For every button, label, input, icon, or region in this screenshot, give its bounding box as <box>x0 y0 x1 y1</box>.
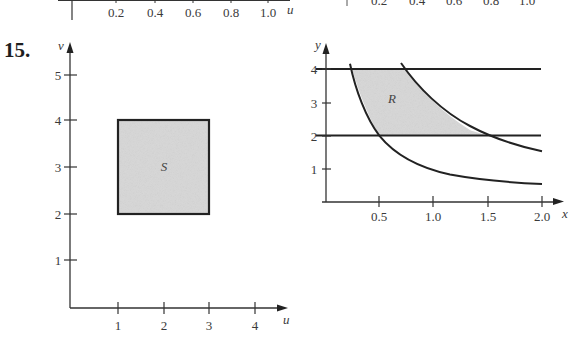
y-tick-2: 2 <box>311 129 318 144</box>
top-left-axis-label-u: u <box>287 2 294 17</box>
y-tick-1: 1 <box>311 162 318 177</box>
v-axis-arrow-icon <box>67 42 74 53</box>
u-axis-label: u <box>283 312 290 327</box>
u-tick-2: 2 <box>161 318 168 333</box>
region-r-label: R <box>387 91 396 106</box>
y-axis-arrow-icon <box>323 43 330 54</box>
y-axis-label: y <box>313 37 321 52</box>
top-left-tick-0.6: 0.6 <box>185 5 202 20</box>
x-tick-1.0: 1.0 <box>425 209 441 224</box>
x-axis-label: x <box>561 206 568 221</box>
x-axis-arrow-icon <box>553 198 564 205</box>
x-ticks: 0.5 1.0 1.5 2.0 <box>371 196 550 224</box>
v-tick-2: 2 <box>55 207 62 222</box>
region-s-label: S <box>161 159 168 174</box>
figure-canvas: 0.2 0.4 0.6 0.8 1.0 u 0.2 0.4 0.6 0.8 1.… <box>0 0 572 337</box>
x-tick-0.5: 0.5 <box>371 209 387 224</box>
u-tick-3: 3 <box>206 318 213 333</box>
u-axis-arrow-icon <box>277 305 288 312</box>
top-right-tick-0.6: 0.6 <box>446 0 463 8</box>
v-ticks: 5 4 3 2 1 <box>55 68 77 268</box>
top-right-tick-0.4: 0.4 <box>409 0 426 8</box>
top-left-tick-0.8: 0.8 <box>223 5 239 20</box>
xy-plot: R y 4 3 2 1 x 0.5 1.0 1.5 2.0 <box>311 37 568 224</box>
v-axis-label: v <box>58 38 64 53</box>
uv-plot: S v 5 4 3 2 1 u 1 2 3 <box>55 38 290 333</box>
y-tick-3: 3 <box>311 96 318 111</box>
v-tick-1: 1 <box>55 253 62 268</box>
top-left-tick-0.4: 0.4 <box>147 5 164 20</box>
top-left-tick-0.2: 0.2 <box>108 5 124 20</box>
x-tick-2.0: 2.0 <box>534 209 550 224</box>
u-ticks: 1 2 3 4 <box>115 302 259 333</box>
u-tick-4: 4 <box>252 318 259 333</box>
y-tick-4: 4 <box>311 62 318 77</box>
v-tick-3: 3 <box>55 160 62 175</box>
top-left-tick-1.0: 1.0 <box>260 5 276 20</box>
u-tick-1: 1 <box>115 318 122 333</box>
x-tick-1.5: 1.5 <box>480 209 496 224</box>
top-cropped-axes: 0.2 0.4 0.6 0.8 1.0 u 0.2 0.4 0.6 0.8 1.… <box>58 0 535 20</box>
top-right-tick-0.2: 0.2 <box>371 0 387 8</box>
top-right-tick-0.8: 0.8 <box>483 0 499 8</box>
v-tick-4: 4 <box>55 113 62 128</box>
y-ticks: 4 3 2 1 <box>311 62 331 177</box>
top-right-tick-1.0: 1.0 <box>519 0 535 8</box>
v-tick-5: 5 <box>55 68 62 83</box>
